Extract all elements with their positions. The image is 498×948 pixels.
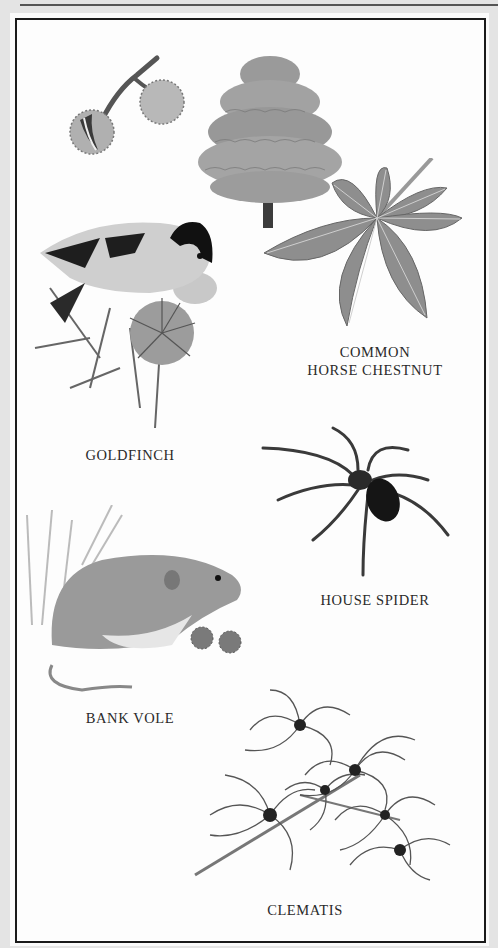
vole-icon	[22, 505, 252, 695]
clematis-seedheads-icon	[190, 685, 460, 890]
house-spider-label: HOUSE SPIDER	[300, 591, 450, 609]
bank-vole-label: BANK VOLE	[70, 709, 190, 727]
top-rule	[20, 4, 498, 6]
goldfinch-on-thistle-icon	[30, 208, 230, 433]
horse-chestnut-label-line1: COMMON	[300, 343, 450, 361]
horse-chestnut-label-line2: HORSE CHESTNUT	[300, 361, 450, 379]
spider-icon	[258, 420, 463, 580]
goldfinch-label: GOLDFINCH	[70, 446, 190, 464]
palmate-leaf-icon	[262, 158, 467, 328]
clematis-label: CLEMATIS	[240, 901, 370, 919]
conker-pods-icon	[62, 50, 192, 160]
